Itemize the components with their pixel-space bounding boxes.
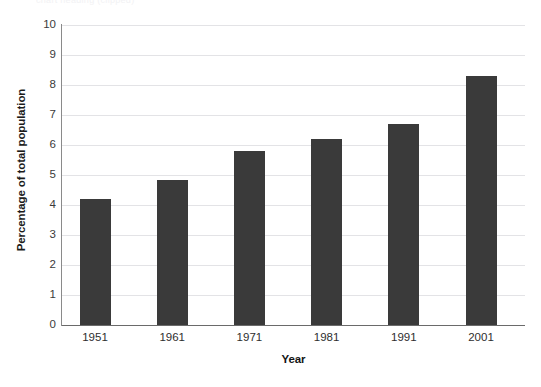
- plot-area: [62, 25, 525, 325]
- x-tick-label: 1981: [292, 332, 362, 344]
- bar: [388, 124, 419, 325]
- gridline: [62, 265, 525, 266]
- gridline: [62, 85, 525, 86]
- bar: [311, 139, 342, 325]
- y-tick-label: 4: [34, 199, 56, 211]
- y-tick-label: 6: [34, 139, 56, 151]
- x-tick-label: 1971: [214, 332, 284, 344]
- y-tick-label: 8: [34, 79, 56, 91]
- y-axis-tick-labels: 109876543210: [30, 25, 56, 325]
- gridline: [62, 145, 525, 146]
- gridline: [62, 235, 525, 236]
- y-tick-label: 3: [34, 229, 56, 241]
- x-axis-tick-labels: 195119611971198119912001: [62, 332, 525, 350]
- y-tick-label: 1: [34, 289, 56, 301]
- y-tick-label: 2: [34, 259, 56, 271]
- gridline: [62, 205, 525, 206]
- bar: [234, 151, 265, 325]
- x-axis-title: Year: [62, 353, 525, 365]
- gridline: [62, 55, 525, 56]
- y-tick-label: 9: [34, 49, 56, 61]
- gridline: [62, 175, 525, 176]
- x-tick-label: 1961: [137, 332, 207, 344]
- gridline: [62, 115, 525, 116]
- y-axis-title: Percentage of total population: [10, 5, 32, 335]
- x-tick-label: 1951: [60, 332, 130, 344]
- x-tick-label: 2001: [446, 332, 516, 344]
- y-tick-label: 5: [34, 169, 56, 181]
- y-tick-label: 0: [34, 319, 56, 331]
- clipped-heading-text: chart heading (clipped): [36, 0, 236, 7]
- gridline: [62, 295, 525, 296]
- axis-baseline: [62, 325, 525, 326]
- x-tick-label: 1991: [369, 332, 439, 344]
- y-tick-label: 7: [34, 109, 56, 121]
- bar: [157, 180, 188, 326]
- bar-chart: chart heading (clipped) Percentage of to…: [0, 0, 541, 387]
- bar: [80, 199, 111, 325]
- bar: [466, 76, 497, 325]
- gridline: [62, 25, 525, 26]
- y-tick-label: 10: [34, 19, 56, 31]
